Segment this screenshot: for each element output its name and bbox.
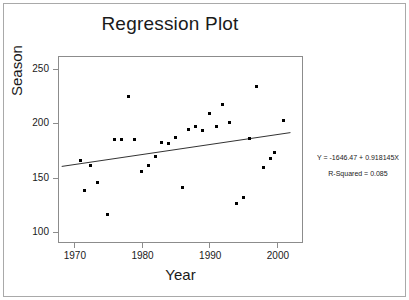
regression-annotation: Y = -1646.47 + 0.918145X R-Squared = 0.0… (310, 150, 406, 182)
plot-inner: 1001502002501970198019902000 (59, 57, 302, 242)
x-axis-tick: 1980 (142, 242, 143, 248)
r-squared-text: R-Squared = 0.085 (310, 166, 406, 182)
data-point (120, 138, 123, 141)
data-point (154, 155, 157, 158)
data-point (174, 136, 177, 139)
data-point (181, 186, 184, 189)
x-axis-tick: 2000 (277, 242, 278, 248)
data-point (113, 138, 116, 141)
x-axis-tick-label: 1970 (64, 250, 86, 261)
x-axis-tick-label: 1990 (199, 250, 221, 261)
y-axis-title: Season (8, 45, 25, 96)
y-axis-tick-label: 150 (32, 172, 49, 183)
data-point (167, 142, 170, 145)
data-point (255, 85, 258, 88)
regression-plot-screenshot: Regression Plot Season Year 100150200250… (0, 0, 409, 300)
chart-title: Regression Plot (0, 13, 340, 35)
data-point (269, 157, 272, 160)
data-point (89, 164, 92, 167)
x-axis-tick: 1990 (209, 242, 210, 248)
data-point (147, 164, 150, 167)
data-point (79, 159, 82, 162)
data-point (106, 213, 109, 216)
data-point (187, 128, 190, 131)
data-point (208, 112, 211, 115)
x-axis-title: Year (58, 266, 303, 283)
y-axis-tick-label: 200 (32, 117, 49, 128)
y-axis-tick: 100 (53, 232, 59, 233)
y-axis-tick: 150 (53, 178, 59, 179)
data-point (194, 125, 197, 128)
data-point (248, 137, 251, 140)
y-axis-tick-label: 100 (32, 226, 49, 237)
data-point (96, 181, 99, 184)
data-point (273, 151, 276, 154)
equation-text: Y = -1646.47 + 0.918145X (310, 150, 406, 166)
y-axis-tick: 250 (53, 69, 59, 70)
data-point (201, 129, 204, 132)
data-point (160, 141, 163, 144)
data-point (228, 121, 231, 124)
x-axis-tick-label: 1980 (131, 250, 153, 261)
data-point (140, 170, 143, 173)
data-point (282, 119, 285, 122)
y-axis-tick-label: 250 (32, 63, 49, 74)
data-point (127, 95, 130, 98)
data-point (235, 202, 238, 205)
data-point (83, 189, 86, 192)
data-point (133, 138, 136, 141)
plot-area: 1001502002501970198019902000 (58, 56, 303, 243)
x-axis-tick-label: 2000 (267, 250, 289, 261)
y-axis-tick: 200 (53, 123, 59, 124)
data-point (221, 103, 224, 106)
data-point (242, 196, 245, 199)
data-point (262, 166, 265, 169)
x-axis-tick: 1970 (74, 242, 75, 248)
data-point (215, 125, 218, 128)
regression-line (59, 57, 304, 244)
